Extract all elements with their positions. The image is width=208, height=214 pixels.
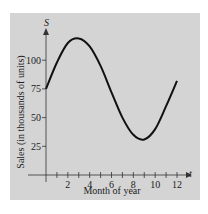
- x-tick-label: 10: [150, 179, 160, 190]
- y-axis-label: Sales (in thousands of units): [15, 55, 27, 168]
- sales-line: [46, 38, 177, 139]
- sales-curve: [46, 38, 177, 139]
- sales-chart: 24681012255075100 S t Month of year Sale…: [0, 0, 208, 214]
- y-axis-arrow-icon: [43, 28, 49, 35]
- y-axis-variable: S: [44, 17, 49, 28]
- x-axis-variable: t: [189, 168, 192, 179]
- x-tick-label: 12: [172, 179, 182, 190]
- x-tick-label: 2: [65, 179, 70, 190]
- x-axis-label: Month of year: [83, 185, 141, 196]
- y-tick-label: 25: [31, 141, 41, 152]
- y-tick-label: 75: [31, 83, 41, 94]
- y-tick-label: 50: [31, 112, 41, 123]
- y-tick-label: 100: [26, 55, 41, 66]
- axes: 24681012255075100: [26, 28, 192, 190]
